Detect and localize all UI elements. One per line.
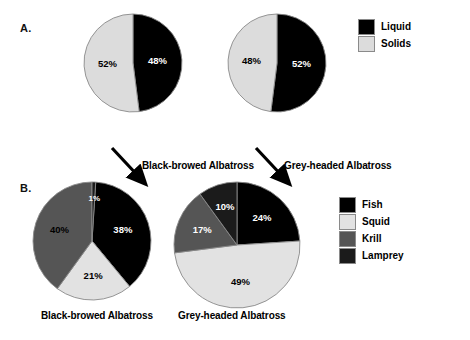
pie-chart-a-black-browed: 48%52% (84, 14, 182, 112)
legend-label-squid: Squid (362, 216, 390, 227)
legend-item-squid: Squid (339, 213, 404, 230)
pie-slice-label-lamprey: 1% (89, 194, 101, 203)
legend-panel-b: Fish Squid Krill Lamprey (339, 196, 404, 264)
legend-swatch-fish (339, 197, 356, 213)
legend-label-krill: Krill (362, 233, 381, 244)
species-label-b-grey-headed: Grey-headed Albatross (178, 310, 286, 321)
pie-chart-b-black-browed: 38%21%40%1% (33, 182, 151, 300)
pie-chart-a-grey-headed: 52%48% (228, 14, 326, 112)
legend-swatch-krill (339, 231, 356, 247)
pie-slice-squid (174, 241, 300, 308)
pie-slice-label-squid: 21% (84, 270, 104, 281)
panel-a-letter: A. (20, 22, 31, 34)
species-label-b-black-browed: Black-browed Albatross (41, 310, 153, 321)
legend-label-liquid: Liquid (381, 21, 411, 32)
figure-canvas: A. 48%52% 52%48% Black-browed Albatross … (0, 0, 470, 340)
pie-slice-label-squid: 49% (231, 276, 251, 287)
legend-item-liquid: Liquid (358, 18, 411, 35)
pie-slice-label-solids: 48% (242, 55, 262, 66)
legend-swatch-squid (339, 214, 356, 230)
pie-slice-label-fish: 38% (113, 224, 133, 235)
legend-swatch-lamprey (339, 248, 356, 264)
legend-label-fish: Fish (362, 199, 383, 210)
pie-chart-b-grey-headed: 24%49%17%10% (174, 182, 300, 308)
species-label-a-black-browed: Black-browed Albatross (142, 160, 254, 171)
pie-slice-label-lamprey: 10% (215, 201, 235, 212)
pie-slice-label-solids: 52% (98, 58, 118, 69)
pie-slice-label-fish: 24% (253, 212, 273, 223)
pie-slice-label-krill: 40% (50, 224, 70, 235)
legend-swatch-solids (358, 36, 375, 52)
pie-slice-label-liquid: 48% (148, 55, 168, 66)
legend-item-krill: Krill (339, 230, 404, 247)
legend-label-lamprey: Lamprey (362, 250, 404, 261)
legend-swatch-liquid (358, 19, 375, 35)
legend-item-fish: Fish (339, 196, 404, 213)
legend-label-solids: Solids (381, 38, 411, 49)
pie-slice-label-krill: 17% (193, 224, 213, 235)
legend-panel-a: Liquid Solids (358, 18, 411, 52)
legend-item-solids: Solids (358, 35, 411, 52)
legend-item-lamprey: Lamprey (339, 247, 404, 264)
panel-b-letter: B. (20, 182, 31, 194)
pie-slice-label-liquid: 52% (292, 58, 312, 69)
